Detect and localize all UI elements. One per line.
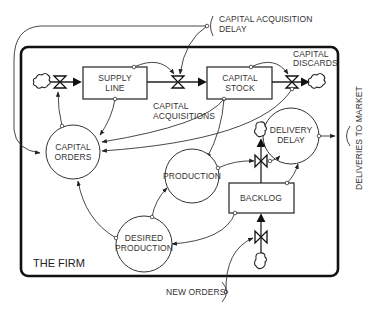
tap-supply-bottom xyxy=(113,97,117,101)
sink-cloud-icon xyxy=(308,74,325,89)
link-supply-to-orders xyxy=(100,99,115,135)
tap-supply-top xyxy=(132,65,136,69)
capital-stock-label-2: STOCK xyxy=(225,83,255,93)
deliveries-to-market-label: DELIVERIES TO MARKET xyxy=(354,86,364,190)
capital-acquisition-delay-label-1: CAPITAL ACQUISITION xyxy=(219,14,313,24)
capital-orders-label-1: CAPITAL xyxy=(55,142,91,152)
tap-deliveries xyxy=(268,159,272,163)
supply-line-label-1: SUPPLY xyxy=(98,73,132,83)
capital-orders-label-2: ORDERS xyxy=(55,152,92,162)
link-desired-to-orders xyxy=(78,181,116,238)
tap-desired-left xyxy=(114,236,118,240)
production-label: PRODUCTION xyxy=(163,171,221,181)
source-cloud-icon xyxy=(33,74,50,89)
link-delay-to-acquisitions xyxy=(180,26,207,74)
stock-flow-diagram: THE FIRM CAPITAL ACQUISITION DELAY SUPPL… xyxy=(0,0,376,316)
capital-discards-label-2: DISCARDS xyxy=(293,58,338,68)
desired-production-label-1: DESIRED xyxy=(125,233,164,243)
capital-stock-label-1: CAPITAL xyxy=(222,73,258,83)
link-production-to-deliveries xyxy=(218,161,254,168)
market-sink-bracket xyxy=(347,126,351,146)
tap-orders xyxy=(60,124,64,128)
deliveries-sink-cloud-icon xyxy=(255,122,267,137)
new-orders-label: NEW ORDERS xyxy=(166,287,226,297)
link-new-orders-to-valve xyxy=(226,238,253,292)
backlog-label: BACKLOG xyxy=(240,193,282,203)
tap-stock-top xyxy=(249,65,253,69)
new-orders-source-cloud-icon xyxy=(255,253,267,269)
link-backlog-to-delay xyxy=(287,164,298,183)
delivery-delay-label-2: DELAY xyxy=(277,135,305,145)
link-desired-to-production xyxy=(152,188,167,217)
tap-delivery-delay xyxy=(317,134,321,138)
capital-acquisitions-label-1: CAPITAL xyxy=(153,101,189,111)
tap-production xyxy=(216,166,220,170)
firm-label: THE FIRM xyxy=(33,257,85,269)
capital-acquisition-delay-label-2: DELAY xyxy=(219,24,247,34)
link-stock-to-production xyxy=(207,99,224,158)
link-backlog-to-desired xyxy=(172,213,235,244)
desired-production-label-2: PRODUCTION xyxy=(115,243,173,253)
delivery-delay-label-1: DELIVERY xyxy=(270,125,313,135)
tap-discards xyxy=(290,87,294,91)
capital-acquisitions-label-2: ACQUISITIONS xyxy=(153,111,215,121)
delay-source-bracket xyxy=(211,16,214,36)
link-orders-to-valve xyxy=(58,92,62,126)
tap-backlog-top xyxy=(285,181,289,185)
tap-backlog-bottom xyxy=(233,211,237,215)
tap-desired-top xyxy=(150,215,154,219)
delay-tap xyxy=(205,24,209,28)
supply-line-label-2: LINE xyxy=(105,83,125,93)
